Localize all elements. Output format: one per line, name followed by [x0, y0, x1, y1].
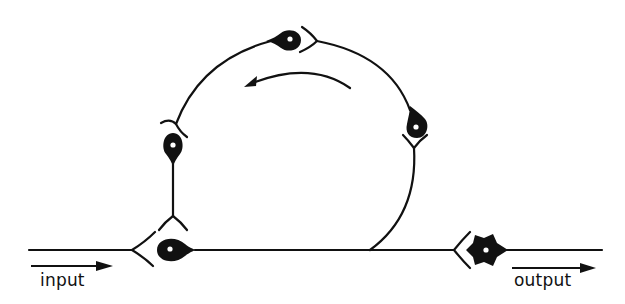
left-neuron-nucleus: [170, 142, 175, 147]
neural-loop-diagram: [0, 0, 625, 304]
flow-arrowhead-icon: [244, 76, 257, 87]
output-neuron-nucleus: [483, 247, 488, 252]
top-neuron-nucleus: [287, 36, 292, 41]
left-neuron-icon: [163, 133, 182, 167]
top-neuron-icon: [266, 30, 301, 50]
output-label: output: [514, 270, 571, 290]
input-label: input: [40, 270, 85, 290]
loop-arc-right: [317, 41, 410, 110]
synapse-input-left: [132, 232, 155, 266]
synapse-top-neuron: [300, 27, 317, 52]
synapse-input-top: [159, 216, 187, 230]
input-neuron-icon: [157, 239, 198, 261]
right-neuron-nucleus: [413, 124, 418, 129]
input-neuron-nucleus: [167, 246, 172, 251]
input-arrowhead-icon: [96, 261, 113, 271]
loop-arc-bottom: [370, 148, 414, 250]
flow-arrow-curve: [250, 73, 350, 88]
output-arrowhead-icon: [580, 263, 596, 273]
